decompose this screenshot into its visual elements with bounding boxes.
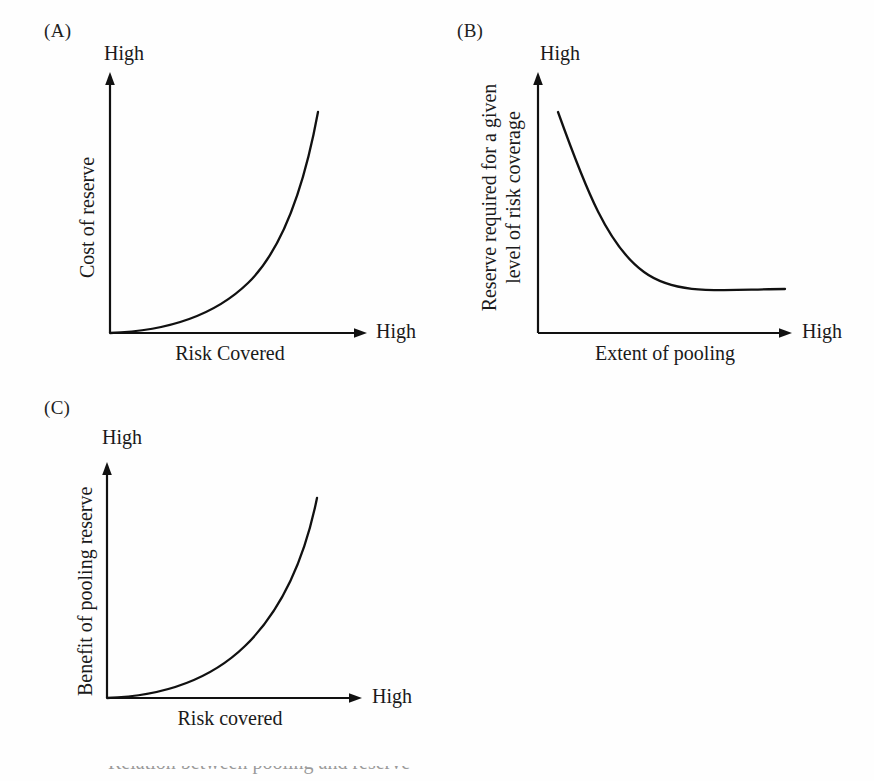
- panel-a: (A) High Cost of reserve High Risk Cover…: [0, 0, 440, 380]
- figure-caption-cropped: Relation between pooling and reserve: [0, 766, 874, 781]
- panel-b-x-axis-high-label: High: [802, 320, 842, 343]
- panel-b: (B) High Reserve required for a given le…: [440, 0, 874, 380]
- panel-a-plot: [0, 0, 440, 380]
- figure-page: (A) High Cost of reserve High Risk Cover…: [0, 0, 874, 781]
- panel-c-curve: [107, 498, 317, 698]
- panel-a-x-axis-high-label: High: [376, 320, 416, 343]
- panel-c-y-axis-arrow-icon: [102, 462, 112, 475]
- panel-c: (C) High Benefit of pooling reserve High…: [0, 380, 440, 760]
- panel-b-curve: [558, 112, 785, 290]
- panel-a-curve: [110, 112, 318, 333]
- panel-c-x-axis-title: Risk covered: [135, 707, 325, 730]
- panel-b-y-axis-arrow-icon: [533, 72, 543, 85]
- panel-c-x-axis-arrow-icon: [349, 693, 362, 703]
- panel-b-x-axis-title: Extent of pooling: [560, 342, 770, 365]
- figure-caption-text: Relation between pooling and reserve: [0, 766, 874, 774]
- panel-b-x-axis-arrow-icon: [779, 328, 792, 338]
- panel-c-x-axis-high-label: High: [372, 685, 412, 708]
- panel-a-x-axis-title: Risk Covered: [135, 342, 325, 365]
- panel-a-x-axis-arrow-icon: [354, 328, 367, 338]
- panel-a-y-axis-arrow-icon: [105, 72, 115, 85]
